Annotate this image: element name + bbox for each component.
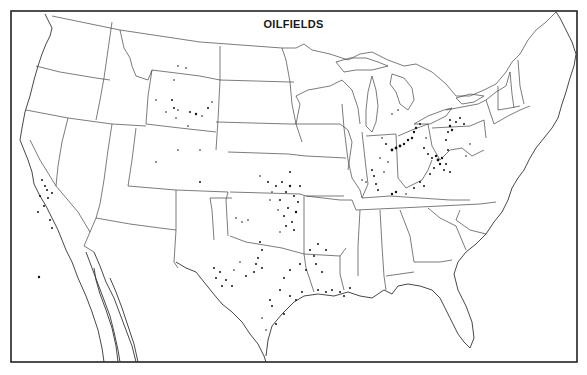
lake-ontario: [456, 94, 484, 104]
oilfields-map: OILFIELDS: [0, 0, 587, 375]
lake-michigan: [366, 76, 378, 132]
map-canvas: [0, 0, 587, 375]
baja-peninsula: [86, 252, 136, 362]
us-outline: [20, 12, 576, 362]
map-title: OILFIELDS: [0, 18, 587, 30]
oilfield-dots: [37, 65, 471, 331]
lake-erie: [414, 108, 452, 124]
lake-huron: [390, 74, 414, 110]
lake-superior: [336, 58, 388, 72]
state-boundaries: [26, 22, 530, 292]
map-border: [11, 11, 577, 362]
